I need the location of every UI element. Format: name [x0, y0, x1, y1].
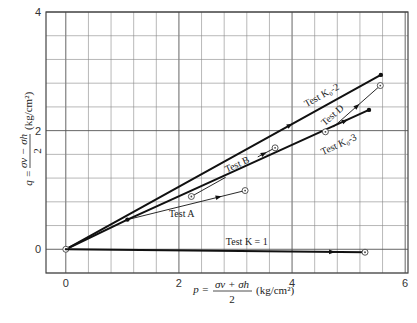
y-tick-label: 0 — [35, 243, 41, 255]
y-axis-label: q = σv − σh 2 (kg/cm²) — [17, 92, 43, 186]
stress-path-chart: Test K₀-2Test DTest K₀-3Test BTest ATest… — [0, 0, 417, 323]
open-point-marker-center — [379, 85, 381, 87]
x-tick-label: 2 — [176, 277, 182, 289]
tick-labels: 0246024 — [35, 6, 408, 289]
x-axis-label: p = σv + σh 2 (kg/cm²) — [192, 278, 294, 305]
y-label-numerator: σv − σh — [17, 133, 29, 168]
x-label-unit: (kg/cm²) — [256, 284, 294, 297]
x-tick-label: 6 — [402, 277, 408, 289]
y-label-unit: (kg/cm²) — [22, 92, 35, 130]
x-label-numerator: σv + σh — [215, 278, 250, 290]
series-annotation-label: Test K = 1 — [226, 236, 268, 247]
y-tick-label: 4 — [35, 6, 41, 18]
open-point-marker-center — [274, 147, 276, 149]
x-label-lhs: p = — [192, 283, 209, 295]
y-tick-label: 2 — [35, 125, 41, 137]
open-point-marker-center — [190, 196, 192, 198]
y-label-lhs: q = — [22, 170, 34, 186]
filled-point-marker — [367, 108, 371, 112]
series-line-test-b-part-1- — [191, 177, 225, 196]
arrowhead — [215, 194, 222, 200]
series-line-test-k0-2 — [66, 75, 381, 249]
open-point-marker-center — [364, 251, 366, 253]
arrowhead — [329, 250, 335, 255]
series-annotation-label: Test A — [169, 208, 195, 219]
annotations-layer: Test K₀-2Test DTest K₀-3Test BTest ATest… — [169, 81, 358, 247]
filled-point-marker — [379, 73, 383, 77]
x-label-denominator: 2 — [229, 293, 235, 305]
open-point-marker-center — [325, 131, 327, 133]
y-label-denominator: 2 — [31, 148, 43, 154]
open-point-marker-center — [244, 190, 246, 192]
x-tick-label: 0 — [63, 277, 69, 289]
